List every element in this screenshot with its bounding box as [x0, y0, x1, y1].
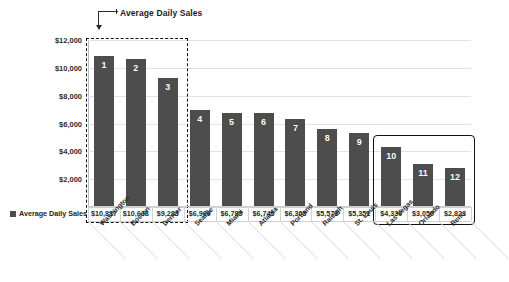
bar[interactable]: 4 [190, 110, 210, 207]
bar[interactable]: 2 [126, 59, 146, 207]
y-axis-tick-label: $8,000 [59, 91, 82, 100]
bar-cell[interactable]: 11 [407, 40, 439, 207]
callout-leader-icon [92, 11, 118, 30]
bar-cell[interactable]: 7 [280, 40, 312, 207]
bar-cell[interactable]: 4 [184, 40, 216, 207]
bar-rank-label: 3 [158, 82, 178, 92]
y-axis-labels: $12,000$10,000$8,000$6,000$4,000$2,000 [0, 40, 84, 207]
bar-rank-label: 7 [285, 123, 305, 133]
chart-title: Average Daily Sales [120, 8, 202, 18]
y-axis-tick-label: $12,000 [55, 36, 82, 45]
bar[interactable]: 9 [349, 133, 369, 207]
value-cell-divider [248, 207, 249, 221]
x-label-divider [343, 222, 380, 259]
bar[interactable]: 11 [413, 164, 433, 207]
bar-rank-label: 2 [126, 63, 146, 73]
y-axis-tick-label: $10,000 [55, 63, 82, 72]
bar-cell[interactable]: 1 [88, 40, 120, 207]
bar[interactable]: 6 [254, 113, 274, 207]
bar[interactable]: 1 [94, 56, 114, 207]
legend-label: Average Daily Sales [19, 209, 87, 218]
bar[interactable]: 7 [285, 119, 305, 207]
x-label-divider [439, 222, 476, 259]
x-label-divider [184, 222, 221, 259]
x-label-divider [248, 222, 285, 259]
value-cell-divider [152, 207, 153, 221]
x-axis-labels: WashingtonBostonDenverSeattleMiamiAtlant… [88, 222, 471, 280]
legend-swatch-icon [10, 211, 16, 217]
x-label-divider [216, 222, 253, 259]
bar-rank-label: 10 [381, 151, 401, 161]
y-axis-tick-label: $4,000 [59, 147, 82, 156]
bar-rank-label: 4 [190, 114, 210, 124]
bar-cell[interactable]: 5 [216, 40, 248, 207]
legend: Average Daily Sales [10, 207, 86, 221]
plot-area: 123456789101112 [88, 40, 471, 207]
bar-rank-label: 5 [222, 117, 242, 127]
value-cell-divider [471, 207, 472, 221]
x-label-divider [280, 222, 317, 259]
bar-series: 123456789101112 [88, 40, 471, 207]
bar[interactable]: 8 [317, 129, 337, 207]
x-label-divider [88, 222, 125, 259]
bar-cell[interactable]: 3 [152, 40, 184, 207]
x-label-divider [312, 222, 349, 259]
bar[interactable]: 10 [381, 147, 401, 207]
bar-cell[interactable]: 8 [311, 40, 343, 207]
value-cell-divider [184, 207, 185, 221]
bar-cell[interactable]: 10 [375, 40, 407, 207]
x-label-divider [120, 222, 157, 259]
y-axis-tick-label: $6,000 [59, 119, 82, 128]
y-axis-tick-label: $2,000 [59, 175, 82, 184]
bar[interactable]: 3 [158, 78, 178, 207]
x-label-divider [152, 222, 189, 259]
value-cell-divider [216, 207, 217, 221]
bar[interactable]: 12 [445, 168, 465, 207]
x-label-divider [471, 222, 508, 259]
bar-rank-label: 11 [413, 168, 433, 178]
bar-cell[interactable]: 9 [343, 40, 375, 207]
bar-rank-label: 1 [94, 60, 114, 70]
bar-rank-label: 9 [349, 137, 369, 147]
x-label-divider [375, 222, 412, 259]
bar-rank-label: 12 [445, 172, 465, 182]
bar-cell[interactable]: 6 [248, 40, 280, 207]
bar-cell[interactable]: 12 [439, 40, 471, 207]
value-cell-divider [88, 207, 89, 221]
bar-rank-label: 8 [317, 133, 337, 143]
bar-cell[interactable]: 2 [120, 40, 152, 207]
value-cell-divider [280, 207, 281, 221]
bar-rank-label: 6 [254, 117, 274, 127]
x-label-divider [407, 222, 444, 259]
bar[interactable]: 5 [222, 113, 242, 207]
